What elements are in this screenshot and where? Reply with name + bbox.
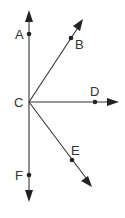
ray-CE xyxy=(29,102,86,178)
point-A xyxy=(27,32,32,37)
point-E xyxy=(70,158,75,163)
label-D: D xyxy=(90,84,99,99)
arrowhead-down-icon xyxy=(25,190,33,202)
arrowhead-right-icon xyxy=(107,98,119,106)
arrowhead-down-right-icon xyxy=(81,176,92,187)
label-F: F xyxy=(15,168,23,183)
label-A: A xyxy=(15,27,24,42)
arrowhead-up-icon xyxy=(25,10,33,22)
point-D xyxy=(93,100,98,105)
label-B: B xyxy=(75,37,84,52)
rays-diagram: A B C D E F xyxy=(0,0,125,218)
label-C: C xyxy=(14,95,23,110)
label-E: E xyxy=(71,143,80,158)
arrowhead-up-right-icon xyxy=(73,19,83,31)
point-B xyxy=(69,36,74,41)
point-F xyxy=(27,173,32,178)
